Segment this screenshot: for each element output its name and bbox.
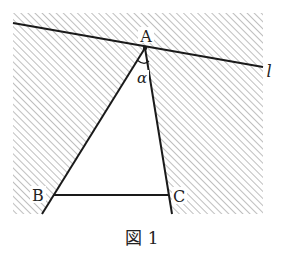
figure-diagram: A B C α l 図 1	[0, 0, 284, 255]
label-a: A	[139, 27, 152, 46]
point-a-dot	[143, 46, 147, 50]
label-alpha: α	[137, 69, 147, 87]
label-c: C	[173, 187, 185, 206]
label-b: B	[32, 186, 44, 205]
label-line-l: l	[266, 62, 271, 81]
figure-caption: 図 1	[125, 228, 158, 248]
